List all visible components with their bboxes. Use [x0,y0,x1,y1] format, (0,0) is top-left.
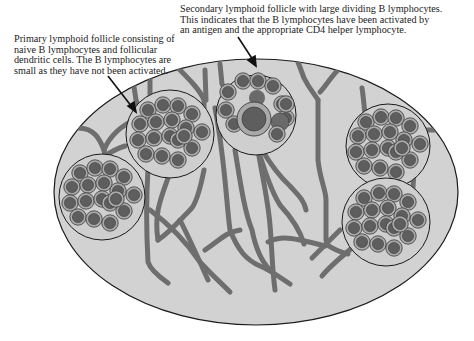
caption-primary-follicle: Primary lymphoid follicle consisting of … [14,34,175,76]
follicle-primary-bottom-right [342,178,430,266]
caption-line: small as they have not been activated. [14,66,175,77]
caption-line: Primary lymphoid follicle consisting of [14,34,175,45]
follicle-primary-top-left [126,90,214,178]
caption-line: an antigen and the appropriate CD4 helpe… [180,25,442,36]
caption-line: Secondary lymphoid follicle with large d… [180,4,442,15]
caption-secondary-follicle: Secondary lymphoid follicle with large d… [180,4,442,36]
follicle-primary-right [346,104,430,188]
follicle-primary-left [59,154,145,240]
